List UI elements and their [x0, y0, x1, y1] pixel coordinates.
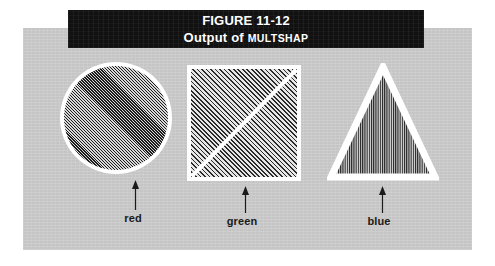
shape-label-green: green — [215, 215, 269, 227]
shape-triangle — [327, 63, 439, 181]
figure-number: FIGURE 11-12 — [68, 12, 424, 29]
square-fill-hatch — [191, 69, 297, 177]
figure-title-prefix: Output of — [184, 30, 244, 45]
figure-root: red green blue FIGURE 11-12 Output of MU… — [0, 0, 495, 266]
figure-title: Output of MULTSHAP — [68, 29, 424, 47]
figure-caption-bar: FIGURE 11-12 Output of MULTSHAP — [68, 10, 424, 48]
figure-title-procedure-name: MULTSHAP — [248, 32, 309, 44]
circle-fill-hatch — [64, 66, 168, 170]
figure-panel: red green blue — [23, 28, 472, 250]
pointer-arrow-blue — [378, 186, 387, 213]
pointer-arrow-red — [131, 180, 140, 210]
shape-square — [187, 65, 301, 181]
shape-label-blue: blue — [352, 215, 406, 227]
shape-label-red: red — [106, 212, 160, 224]
shape-circle — [60, 62, 172, 174]
pointer-arrow-green — [241, 186, 250, 213]
